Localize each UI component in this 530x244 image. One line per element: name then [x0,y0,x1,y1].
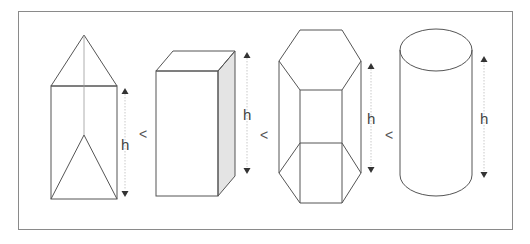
height-arrow-3: h [367,63,375,173]
shapes-diagram: h < h < h < h [0,0,530,244]
triangular-prism [51,35,117,199]
height-arrow-4: h [480,56,488,178]
height-label-1: h [121,136,129,153]
height-label-2: h [243,106,251,123]
height-arrow-2: h [243,52,251,174]
rectangular-prism [156,51,235,196]
less-than-1: < [139,126,147,142]
height-label-4: h [480,110,488,127]
hexagonal-prism [279,30,361,203]
height-arrow-1: h [121,88,129,197]
height-label-3: h [367,110,375,127]
less-than-3: < [385,127,393,143]
less-than-2: < [260,127,268,143]
cylinder [400,29,472,196]
